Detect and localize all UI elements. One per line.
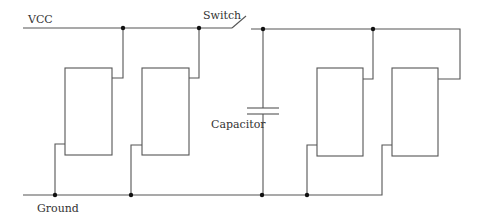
junction-dot <box>129 193 133 197</box>
block-1 <box>65 68 112 155</box>
junction-dot <box>197 26 201 30</box>
ground-label: Ground <box>37 202 79 215</box>
block-2-vcc-wire <box>189 28 199 78</box>
block-1-ground-wire <box>55 144 65 195</box>
vcc-label: VCC <box>27 13 53 26</box>
junction-dot <box>261 27 265 31</box>
junction-dot <box>305 193 309 197</box>
junction-dot <box>260 193 264 197</box>
block-1-vcc-wire <box>112 28 123 78</box>
capacitor-label: Capacitor <box>211 118 266 131</box>
block-3 <box>317 68 363 156</box>
block-3-ground-wire <box>307 145 317 195</box>
block-4 <box>392 68 438 156</box>
block-2-ground-wire <box>131 145 142 195</box>
junction-dot <box>121 26 125 30</box>
block-3-vcc-wire <box>363 29 373 79</box>
block-2 <box>142 68 189 155</box>
junction-dot <box>371 27 375 31</box>
junction-dot <box>53 193 57 197</box>
circuit-diagram: VCC Switch Capacitor Ground <box>0 0 480 219</box>
switch-label: Switch <box>203 9 241 22</box>
